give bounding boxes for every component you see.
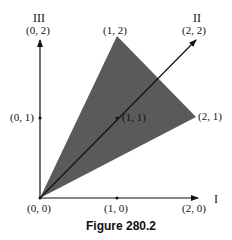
point-origin	[39, 197, 42, 200]
label-1-1: (1, 1)	[122, 112, 146, 123]
point-1-1	[116, 117, 119, 120]
axis-label-I: I	[214, 193, 218, 205]
label-0-2: (0, 2)	[26, 25, 50, 36]
label-origin: (0, 0)	[27, 203, 51, 214]
label-1-2: (1, 2)	[103, 25, 127, 36]
label-2-1: (2, 1)	[198, 111, 222, 122]
figure: III II I (0, 2) (1, 2) (2, 2) (0, 1) (1,…	[0, 0, 232, 240]
label-1-0: (1, 0)	[104, 203, 128, 214]
label-2-2: (2, 2)	[182, 25, 206, 36]
label-0-1: (0, 1)	[10, 112, 34, 123]
label-2-0: (2, 0)	[182, 203, 206, 214]
axis-label-II: II	[193, 12, 201, 24]
axis-label-III: III	[33, 12, 45, 24]
figure-caption: Figure 280.2	[0, 219, 232, 233]
point-1-0	[116, 197, 119, 200]
point-0-1	[39, 117, 42, 120]
